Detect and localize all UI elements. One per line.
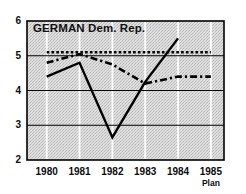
chart-title: GERMAN Dem. Rep.	[33, 22, 145, 34]
y-tick-label: 6	[5, 15, 21, 26]
x-tick-sublabel-plan: Plan	[193, 178, 229, 188]
y-tick-label: 4	[5, 85, 21, 96]
y-tick-label: 5	[5, 50, 21, 61]
chart-container: GERMAN Dem. Rep. 23456 19801981198219831…	[0, 0, 246, 194]
x-tick-label: 1984	[160, 166, 196, 177]
x-tick-label: 1980	[29, 166, 65, 177]
x-tick-label: 1982	[94, 166, 130, 177]
x-tick-label: 1981	[62, 166, 98, 177]
x-tick-label: 1983	[127, 166, 163, 177]
y-tick-label: 3	[5, 119, 21, 130]
y-tick-label: 2	[5, 154, 21, 165]
x-tick-label: 1985	[193, 166, 229, 177]
